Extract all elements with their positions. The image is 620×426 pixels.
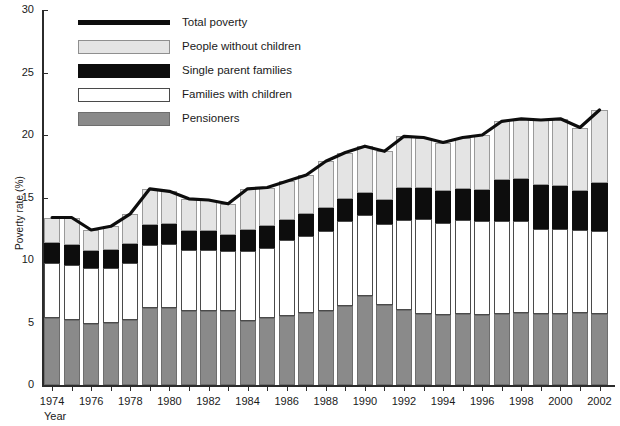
bar-segment-families	[279, 240, 295, 316]
bar-segment-pensioners	[513, 313, 529, 386]
bar-segment-families	[552, 229, 568, 314]
bar-segment-nochild	[318, 161, 334, 207]
x-tick-label: 1998	[499, 395, 543, 407]
bar-segment-pensioners	[591, 314, 607, 385]
bar-segment-nochild	[435, 143, 451, 192]
bar-segment-single	[572, 191, 588, 230]
bar-segment-pensioners	[396, 310, 412, 385]
bar-segment-nochild	[142, 189, 158, 225]
x-tick-label: 2002	[578, 395, 620, 407]
bar-segment-pensioners	[220, 311, 236, 385]
bar-1983	[220, 0, 236, 386]
bar-1992	[396, 0, 412, 386]
bar-1981	[181, 0, 197, 386]
legend-swatch-nochild	[78, 40, 170, 54]
x-tick	[463, 386, 464, 391]
bar-segment-single	[494, 180, 510, 221]
bar-segment-nochild	[415, 138, 431, 188]
bar-1991	[376, 0, 392, 386]
bar-segment-pensioners	[64, 320, 80, 385]
x-tick	[267, 386, 268, 391]
bar-segment-families	[103, 268, 119, 323]
bar-segment-pensioners	[103, 323, 119, 386]
x-tick-label: 1988	[304, 395, 348, 407]
bar-1997	[494, 0, 510, 386]
bar-1974	[44, 0, 60, 386]
legend-item-families: Families with children	[78, 86, 338, 103]
bar-segment-nochild	[103, 226, 119, 250]
bar-segment-single	[122, 244, 138, 263]
bar-segment-single	[533, 185, 549, 229]
bar-segment-pensioners	[142, 308, 158, 386]
x-tick	[111, 386, 112, 391]
bar-segment-families	[494, 221, 510, 314]
legend-item-pensioners: Pensioners	[78, 110, 338, 127]
bar-segment-families	[415, 219, 431, 314]
bar-segment-nochild	[337, 153, 353, 199]
x-tick	[521, 386, 522, 391]
y-tick-label: 30	[12, 3, 34, 15]
bar-segment-families	[122, 263, 138, 321]
x-tick	[384, 386, 385, 391]
bar-segment-pensioners	[337, 306, 353, 385]
bar-1984	[240, 0, 256, 386]
bar-segment-families	[83, 268, 99, 324]
x-tick	[600, 386, 601, 391]
bar-segment-families	[181, 250, 197, 311]
bar-segment-pensioners	[552, 314, 568, 385]
bar-segment-nochild	[240, 189, 256, 230]
bar-1998	[513, 0, 529, 386]
x-tick-label: 1992	[382, 395, 426, 407]
bar-segment-nochild	[474, 135, 490, 190]
bar-segment-single	[64, 245, 80, 265]
legend-swatch-single	[78, 64, 170, 78]
bar-1978	[122, 0, 138, 386]
bar-1977	[103, 0, 119, 386]
x-tick	[287, 386, 288, 391]
x-tick	[424, 386, 425, 391]
bar-segment-families	[396, 220, 412, 310]
legend-item-single: Single parent families	[78, 62, 338, 79]
bar-segment-families	[318, 231, 334, 311]
x-tick-label: 1994	[421, 395, 465, 407]
bar-1995	[455, 0, 471, 386]
bar-segment-nochild	[44, 218, 60, 243]
bar-segment-nochild	[298, 175, 314, 214]
bar-1989	[337, 0, 353, 386]
x-tick	[580, 386, 581, 391]
legend-label-pensioners: Pensioners	[182, 110, 240, 127]
bar-segment-pensioners	[474, 315, 490, 385]
bar-segment-pensioners	[279, 316, 295, 385]
x-tick	[52, 386, 53, 391]
x-tick	[189, 386, 190, 391]
x-tick	[560, 386, 561, 391]
bar-2001	[572, 0, 588, 386]
y-tick-label: 10	[12, 253, 34, 265]
legend-label-line: Total poverty	[182, 14, 247, 31]
x-tick	[482, 386, 483, 391]
bar-segment-families	[572, 230, 588, 313]
y-tick-label: 25	[12, 66, 34, 78]
legend-label-nochild: People without children	[182, 38, 301, 55]
bar-segment-pensioners	[415, 314, 431, 385]
x-tick	[306, 386, 307, 391]
y-axis-title: Poverty rate (%)	[14, 176, 25, 250]
bar-segment-families	[64, 265, 80, 320]
bar-1990	[357, 0, 373, 386]
x-tick-label: 1982	[187, 395, 231, 407]
bar-segment-nochild	[552, 119, 568, 187]
bar-segment-single	[337, 199, 353, 222]
bar-segment-families	[44, 263, 60, 318]
x-tick	[365, 386, 366, 391]
bar-segment-single	[142, 225, 158, 245]
y-tick-label: 15	[12, 191, 34, 203]
y-tick-label: 5	[12, 316, 34, 328]
bar-1975	[64, 0, 80, 386]
x-tick	[130, 386, 131, 391]
bar-segment-pensioners	[494, 314, 510, 385]
y-tick-label: 0	[12, 378, 34, 390]
bar-1979	[142, 0, 158, 386]
bar-segment-pensioners	[435, 315, 451, 385]
bar-segment-nochild	[181, 199, 197, 232]
bar-segment-single	[396, 188, 412, 221]
